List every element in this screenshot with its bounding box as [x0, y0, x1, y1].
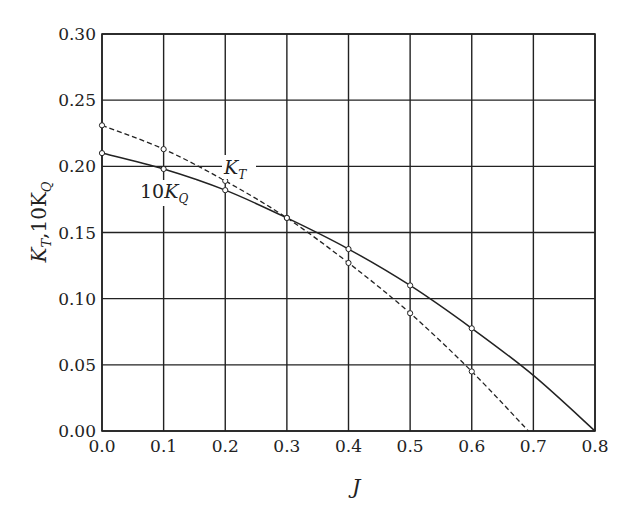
x-tick-label: 0.1 [150, 436, 177, 456]
data-point-marker [469, 369, 474, 374]
data-point-marker [346, 260, 351, 265]
y-tick-label: 0.20 [58, 156, 96, 176]
x-tick-labels: 0.00.10.20.30.40.50.60.70.8 [88, 436, 608, 456]
kt-label-sub: T [238, 168, 247, 182]
x-axis-label: J [348, 475, 362, 499]
y-tick-label: 0.10 [58, 289, 96, 309]
y-tick-label: 0.05 [58, 355, 96, 375]
y-tick-labels: 0.000.050.100.150.200.250.30 [58, 24, 96, 441]
y-tick-label: 0.30 [58, 24, 96, 44]
data-series [99, 123, 595, 431]
x-tick-label: 0.3 [273, 436, 300, 456]
kq-label-prefix: 10 [140, 180, 164, 202]
y-label-mid: ,10K [27, 191, 51, 239]
kq-curve-label: 10KQ [138, 180, 196, 206]
data-point-marker [284, 215, 289, 220]
data-point-marker [223, 178, 228, 183]
data-point-marker [469, 326, 474, 331]
kt-curve-label: KT [222, 155, 256, 182]
chart: 0.00.10.20.30.40.50.60.70.8 0.000.050.10… [0, 0, 627, 510]
kt-curve [102, 125, 528, 431]
grid-lines [102, 34, 595, 431]
x-tick-label: 0.5 [397, 436, 424, 456]
data-point-marker [346, 246, 351, 251]
x-tick-label: 0.4 [335, 436, 362, 456]
data-point-marker [99, 123, 104, 128]
x-tick-label: 0.8 [581, 436, 608, 456]
data-point-marker [161, 166, 166, 171]
y-tick-label: 0.00 [58, 421, 96, 441]
y-label-sub-q: Q [39, 181, 54, 192]
data-point-marker [223, 188, 228, 193]
y-tick-label: 0.15 [58, 223, 96, 243]
svg-text:KT,10KQ: KT,10KQ [27, 181, 54, 263]
y-label-k1: K [27, 247, 51, 264]
x-tick-label: 0.7 [520, 436, 547, 456]
x-tick-label: 0.2 [212, 436, 239, 456]
data-point-marker [161, 147, 166, 152]
x-tick-label: 0.6 [458, 436, 485, 456]
data-point-marker [408, 311, 413, 316]
kq-label-sub: Q [178, 192, 188, 206]
data-point-marker [99, 151, 104, 156]
y-tick-label: 0.25 [58, 90, 96, 110]
y-axis-label: KT,10KQ [27, 181, 54, 263]
data-point-marker [408, 283, 413, 288]
